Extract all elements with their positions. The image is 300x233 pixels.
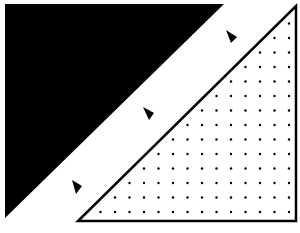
arrowhead-middle [143, 107, 154, 120]
arrowhead-top [226, 30, 237, 43]
arrowhead-bottom [72, 180, 82, 194]
diagram-canvas [0, 0, 300, 233]
